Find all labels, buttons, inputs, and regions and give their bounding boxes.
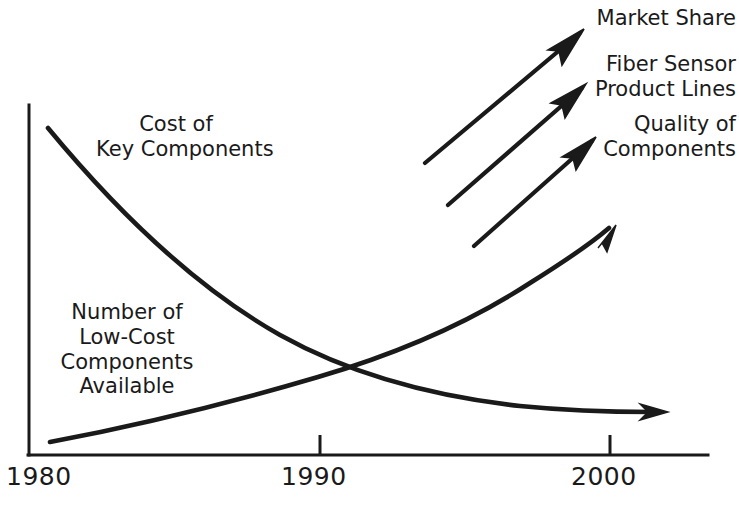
annotation-label-quality-of-components: Quality of Components — [436, 112, 736, 162]
series-label-cost-line-1: Cost of — [96, 112, 256, 137]
series-label-cost-of-key-components: Cost of Key Components — [96, 112, 256, 162]
series-label-number-line-1: Number of — [52, 300, 202, 325]
series-label-number-line-2: Low-Cost — [52, 325, 202, 350]
x-axis-tick-label-1990: 1990 — [281, 462, 347, 492]
x-axis-tick-label-1980: 1980 — [6, 462, 72, 492]
annotation-label-market-share-line-1: Market Share — [436, 6, 736, 31]
annotation-label-fiber-sensor-product-lines: Fiber Sensor Product Lines — [436, 52, 736, 102]
series-label-number-line-4: Available — [52, 374, 202, 399]
chart-canvas: Cost of Key Components Number of Low-Cos… — [0, 0, 739, 507]
annotation-label-market-share: Market Share — [436, 6, 736, 31]
x-axis-tick-label-2000: 2000 — [571, 462, 637, 492]
annotation-label-fiber-sensor-line-2: Product Lines — [436, 77, 736, 102]
annotation-label-quality-line-1: Quality of — [436, 112, 736, 137]
annotation-label-fiber-sensor-line-1: Fiber Sensor — [436, 52, 736, 77]
annotation-label-quality-line-2: Components — [436, 137, 736, 162]
series-label-cost-line-2: Key Components — [96, 137, 256, 162]
series-label-number-of-low-cost-components: Number of Low-Cost Components Available — [52, 300, 202, 399]
series-label-number-line-3: Components — [52, 350, 202, 375]
